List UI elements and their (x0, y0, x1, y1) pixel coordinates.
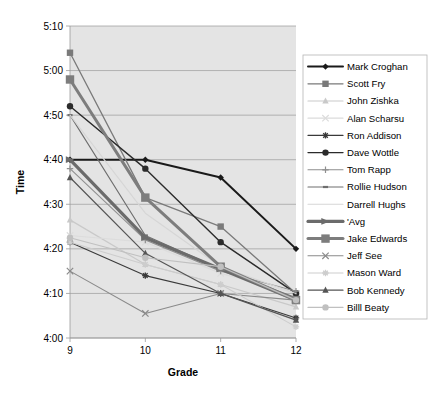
marker-square (321, 234, 329, 242)
x-tick-label: 9 (67, 345, 73, 356)
marker-circle (322, 149, 328, 155)
marker-square (217, 223, 223, 229)
y-axis-title: Time (14, 170, 26, 194)
marker-circle (142, 255, 148, 261)
legend-label: Jeff See (347, 250, 382, 261)
legend-label: John Zishka (347, 95, 399, 106)
marker-dash (323, 186, 328, 188)
y-tick-label: 4:00 (44, 333, 64, 344)
marker-star (322, 270, 328, 276)
marker-circle (217, 263, 223, 269)
y-tick-label: 4:20 (44, 243, 64, 254)
legend-item-10[interactable]: Jake Edwards (308, 233, 407, 244)
legend-label: Rollie Hudson (347, 181, 407, 192)
line-chart: 5:105:004:504:404:304:204:104:009101112G… (0, 0, 431, 402)
legend-label: Dave Wottle (347, 147, 399, 158)
plot-background (70, 26, 296, 338)
marker-star (293, 324, 299, 330)
legend-label: Darrell Hughs (347, 199, 406, 210)
y-tick-label: 5:10 (44, 21, 64, 32)
marker-circle (217, 239, 223, 245)
chart-canvas: 5:105:004:504:404:304:204:104:009101112G… (0, 0, 431, 402)
marker-circle (67, 103, 73, 109)
legend-label: Bob Kennedy (347, 285, 405, 296)
marker-circle (322, 304, 328, 310)
marker-square (66, 75, 74, 83)
marker-star (322, 132, 328, 138)
y-tick-label: 4:10 (44, 288, 64, 299)
y-tick-label: 4:50 (44, 110, 64, 121)
legend-label: 'Avg (347, 216, 365, 227)
y-tick-label: 4:40 (44, 154, 64, 165)
marker-circle (293, 297, 299, 303)
legend-label: Mark Croghan (347, 61, 408, 72)
legend-label: Ron Addison (347, 130, 401, 141)
legend-label: Alan Scharsu (347, 113, 404, 124)
marker-star (217, 281, 223, 287)
y-tick-label: 4:30 (44, 199, 64, 210)
marker-circle (142, 165, 148, 171)
marker-star (142, 272, 148, 278)
legend-label: Tom Rapp (347, 164, 391, 175)
legend-label: Scott Fry (347, 78, 386, 89)
legend-label: Mason Ward (347, 267, 401, 278)
marker-square (322, 81, 328, 87)
legend-label: Jake Edwards (347, 233, 407, 244)
legend-label: Billl Beaty (347, 302, 389, 313)
y-tick-label: 5:00 (44, 65, 64, 76)
marker-square (141, 193, 149, 201)
x-tick-label: 10 (140, 345, 152, 356)
marker-square (67, 50, 73, 56)
x-tick-label: 11 (215, 345, 226, 356)
marker-circle (67, 235, 73, 241)
marker-star (142, 261, 148, 267)
x-tick-label: 12 (290, 345, 302, 356)
x-axis-title: Grade (168, 366, 199, 378)
